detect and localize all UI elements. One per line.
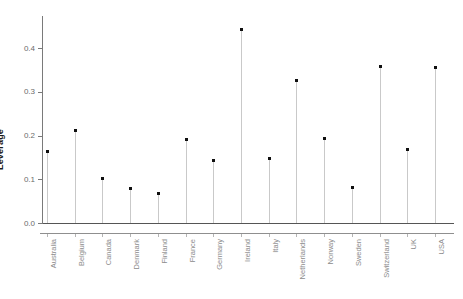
data-stem [269, 158, 270, 223]
x-axis-tick [47, 234, 48, 237]
y-axis-tick-label: 0.1 [24, 176, 35, 184]
y-axis-tick: 0.2 [38, 136, 43, 137]
x-axis-label: Denmark [133, 239, 141, 269]
x-axis-label: Finland [161, 239, 169, 264]
data-stem [407, 150, 408, 224]
y-axis-tick: 0.4 [38, 48, 43, 49]
y-axis-tick-label: 0.0 [24, 220, 35, 228]
data-point[interactable] [101, 177, 104, 180]
x-axis-tick [102, 234, 103, 237]
x-axis-tick [324, 234, 325, 237]
x-axis-label: France [189, 239, 197, 262]
x-axis-tick [407, 234, 408, 237]
data-stem [324, 138, 325, 223]
data-point[interactable] [268, 157, 271, 160]
x-axis-label: USA [438, 239, 446, 254]
x-axis-label: UK [410, 239, 418, 249]
zero-reference-line [42, 223, 454, 224]
y-axis-tick-label: 0.2 [24, 132, 35, 140]
x-axis-label: Sweden [355, 239, 363, 266]
y-axis-tick: 0.0 [38, 223, 43, 224]
data-stem [75, 131, 76, 223]
y-axis-tick-label: 0.3 [24, 88, 35, 96]
data-stem [102, 178, 103, 223]
data-point[interactable] [74, 129, 77, 132]
data-stem [186, 139, 187, 223]
data-stem [435, 68, 436, 223]
data-stem [296, 80, 297, 223]
x-axis-tick [130, 234, 131, 237]
x-axis-tick [186, 234, 187, 237]
data-point[interactable] [323, 137, 326, 140]
data-point[interactable] [434, 66, 437, 69]
x-axis-tick [269, 234, 270, 237]
data-stem [380, 66, 381, 223]
data-point[interactable] [351, 186, 354, 189]
data-point[interactable] [295, 79, 298, 82]
data-point[interactable] [157, 192, 160, 195]
data-point[interactable] [240, 28, 243, 31]
data-stem [352, 187, 353, 223]
data-stem [241, 29, 242, 223]
data-stem [47, 152, 48, 223]
x-axis-label: Canada [105, 239, 113, 265]
x-axis-tick [296, 234, 297, 237]
x-axis-tick [380, 234, 381, 237]
x-axis-tick [75, 234, 76, 237]
data-point[interactable] [129, 187, 132, 190]
x-axis-tick [241, 234, 242, 237]
x-axis-label: Ireland [244, 239, 252, 262]
data-point[interactable] [212, 159, 215, 162]
data-stem [213, 160, 214, 223]
y-axis-tick-label: 0.4 [24, 45, 35, 53]
x-axis-tick [213, 234, 214, 237]
x-axis-label: Norway [327, 239, 335, 264]
leverage-chart: Leverage 0.00.10.20.30.4 AustraliaBelgiu… [0, 0, 463, 299]
x-axis-label: Switzerland [383, 239, 391, 278]
data-point[interactable] [46, 150, 49, 153]
data-stem [158, 193, 159, 223]
x-axis-tick [352, 234, 353, 237]
x-axis-label: Belgium [78, 239, 86, 266]
x-axis-label: Germany [216, 239, 224, 270]
data-point[interactable] [185, 138, 188, 141]
y-axis-tick: 0.3 [38, 92, 43, 93]
x-axis-label: Netherlands [299, 239, 307, 279]
x-axis-tick [435, 234, 436, 237]
y-axis-tick: 0.1 [38, 179, 43, 180]
data-point[interactable] [406, 148, 409, 151]
data-point[interactable] [379, 65, 382, 68]
x-axis-label: Australia [50, 239, 58, 268]
data-stem [130, 189, 131, 223]
x-axis-label: Italy [272, 239, 280, 253]
x-axis-tick [158, 234, 159, 237]
